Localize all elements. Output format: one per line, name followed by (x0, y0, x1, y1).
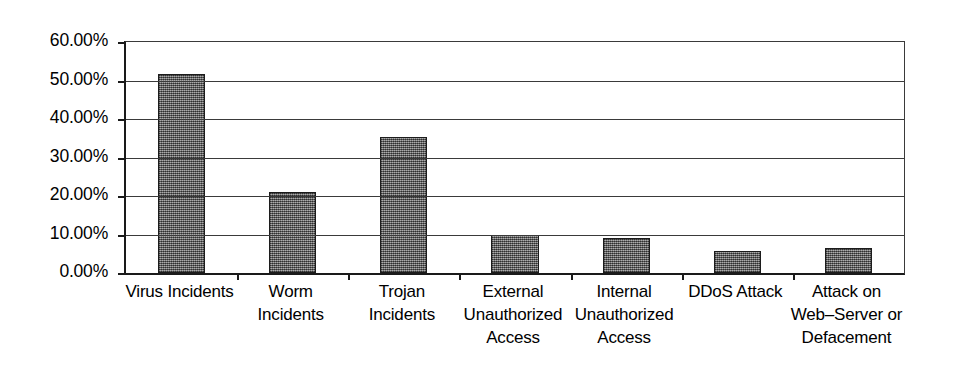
bar (714, 251, 761, 273)
gridline (126, 119, 904, 120)
y-axis-tick-mark (118, 158, 126, 160)
x-axis-tick-mark (571, 273, 573, 280)
x-axis-tick-mark (348, 273, 350, 280)
bar (825, 248, 872, 273)
plot-area (124, 41, 905, 275)
bar (158, 74, 205, 273)
y-axis-tick-mark (118, 196, 126, 198)
bar (269, 192, 316, 273)
x-axis-tick-mark (682, 273, 684, 280)
gridline (126, 158, 904, 159)
gridline (126, 196, 904, 197)
y-axis-tick-label: 0.00% (59, 263, 108, 281)
gridline (126, 81, 904, 82)
y-axis-tick-label: 40.00% (50, 109, 108, 127)
x-axis-category-label-line: Unauthorized (553, 303, 695, 326)
y-axis-tick-mark (118, 81, 126, 83)
bar (491, 235, 538, 274)
x-axis-category-label-line: Attack on (775, 280, 917, 303)
x-axis-category-label-line: Defacement (775, 326, 917, 349)
y-axis-tick-label: 10.00% (50, 225, 108, 243)
bar-chart: 60.00%50.00%40.00%30.00%20.00%10.00%0.00… (0, 0, 953, 372)
x-axis: Virus IncidentsWormIncidentsTrojanIncide… (124, 280, 902, 370)
y-axis-tick-mark (118, 119, 126, 121)
gridline (126, 235, 904, 236)
y-axis-tick-label: 30.00% (50, 148, 108, 166)
x-axis-category-label-line: Web–Server or (775, 303, 917, 326)
y-axis-tick-mark (118, 273, 126, 275)
y-axis-tick-label: 20.00% (50, 186, 108, 204)
x-axis-category-label: Attack onWeb–Server orDefacement (775, 280, 917, 349)
x-axis-tick-mark (459, 273, 461, 280)
y-axis-tick-label: 60.00% (50, 32, 108, 50)
bar (603, 238, 650, 273)
y-axis-tick-mark (118, 235, 126, 237)
x-axis-tick-mark (237, 273, 239, 280)
x-axis-tick-mark (793, 273, 795, 280)
y-axis-tick-mark (118, 42, 126, 44)
y-axis-tick-label: 50.00% (50, 71, 108, 89)
x-axis-category-label-line: Access (553, 326, 695, 349)
y-axis: 60.00%50.00%40.00%30.00%20.00%10.00%0.00… (0, 0, 116, 372)
